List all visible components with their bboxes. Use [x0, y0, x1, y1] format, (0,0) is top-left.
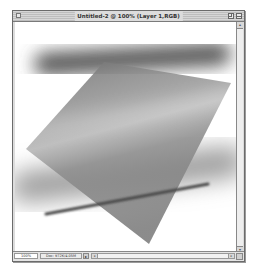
vertical-scrollbar[interactable]: ▴ ▾ [236, 22, 243, 253]
close-box-icon[interactable] [16, 13, 21, 18]
zoom-box-icon[interactable] [228, 13, 234, 19]
collapse-box-icon[interactable] [236, 13, 242, 19]
title-bar[interactable]: Untitled-2 @ 100% (Layer 1,RGB) [13, 11, 244, 22]
window-title: Untitled-2 @ 100% (Layer 1,RGB) [74, 11, 182, 21]
resize-grow-box-icon[interactable] [236, 253, 243, 260]
zoom-level-field[interactable]: 100% [14, 253, 38, 259]
scroll-left-arrow-icon[interactable]: ◂ [92, 254, 98, 258]
scroll-right-arrow-icon[interactable]: ▸ [228, 254, 234, 258]
image-canvas[interactable] [15, 22, 237, 253]
status-bar: 100% Doc: 972K/4.05M ▸ ◂ ▸ [13, 251, 244, 261]
scroll-up-arrow-icon[interactable]: ▴ [237, 22, 243, 29]
document-window: Untitled-2 @ 100% (Layer 1,RGB) [12, 10, 245, 262]
document-size-info: Doc: 972K/4.05M [40, 253, 82, 259]
blurred-bar-top [45, 54, 220, 64]
horizontal-scrollbar[interactable]: ◂ ▸ [91, 253, 235, 259]
info-menu-arrow-icon[interactable]: ▸ [83, 253, 89, 259]
canvas-artwork [15, 22, 236, 253]
